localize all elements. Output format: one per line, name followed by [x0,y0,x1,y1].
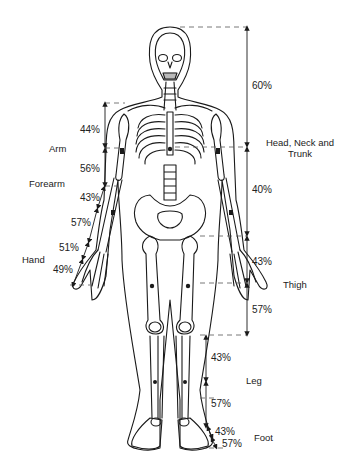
foot-label: Foot [254,432,273,443]
skeleton-figure [0,0,346,468]
head-neck-trunk-label: Head, Neck and Trunk [258,137,342,159]
thigh-upper-percent: 43% [252,256,272,267]
segment-proportion-diagram: 60% Head, Neck and Trunk 40% 43% Thigh 5… [0,0,346,468]
hand-label: Hand [22,254,45,265]
pelvis [135,195,206,240]
forearm-upper-percent: 43% [80,192,100,203]
thigh-label: Thigh [283,279,307,290]
arm-label: Arm [49,143,66,154]
foot-lower-percent: 57% [222,438,242,449]
arm-upper-percent: 44% [80,124,100,135]
left-hand [82,250,108,288]
center-of-mass-dots [111,147,233,384]
trunk-upper-percent: 60% [252,80,272,91]
foot-upper-percent: 43% [215,426,235,437]
left-humerus [116,114,129,180]
leg-lower-percent: 57% [211,398,231,409]
clavicles [128,105,212,111]
leg-label: Leg [246,375,262,386]
thigh-lower-percent: 57% [252,304,272,315]
head-neck-trunk-label-line2: Trunk [258,148,342,159]
forearm-lower-percent: 57% [71,217,91,228]
hand-lower-percent: 49% [53,264,73,275]
right-foot [178,418,208,449]
hand-upper-percent: 51% [59,242,79,253]
arm-lower-percent: 56% [80,163,100,174]
head-neck-trunk-label-line1: Head, Neck and [258,137,342,148]
forearm-label: Forearm [29,178,65,189]
trunk-lower-percent: 40% [252,184,272,195]
dimension-arrows [73,28,247,447]
leg-upper-percent: 43% [211,352,231,363]
ribcage [136,112,204,164]
left-foot [132,418,162,449]
